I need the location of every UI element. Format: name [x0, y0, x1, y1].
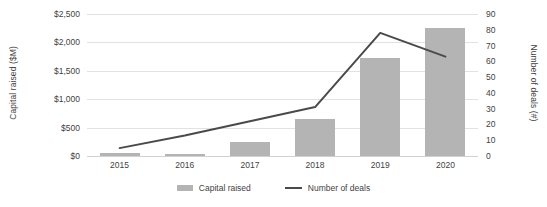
chart-legend: Capital raised Number of deals: [0, 183, 547, 193]
x-axis-tick-label-2019: 2019: [371, 161, 390, 170]
gridline: [87, 156, 478, 157]
x-axis-tick-label-2017: 2017: [240, 161, 259, 170]
legend-item-capital-raised: Capital raised: [177, 183, 251, 193]
y-axis-left-tick-label: $0: [71, 152, 80, 161]
plot-inner: $0$500$1,000$1,500$2,000$2,500 010203040…: [87, 14, 478, 156]
bar-swatch-icon: [177, 185, 193, 191]
y-axis-right-tick-label: 50: [486, 73, 495, 82]
x-axis-tick-label-2015: 2015: [110, 161, 129, 170]
y-axis-left-tick-label: $1,500: [54, 67, 80, 76]
y-axis-right-tick-label: 40: [486, 89, 495, 98]
y-axis-right-tick-label: 30: [486, 105, 495, 114]
deals-line: [120, 33, 446, 148]
legend-label-number-of-deals: Number of deals: [308, 183, 370, 193]
line-swatch-icon: [285, 187, 302, 189]
y-axis-right-tick-label: 70: [486, 42, 495, 51]
y-axis-right-tick-label: 90: [486, 10, 495, 19]
legend-item-number-of-deals: Number of deals: [285, 183, 370, 193]
y-axis-left-tick-label: $2,500: [54, 10, 80, 19]
legend-label-capital-raised: Capital raised: [199, 183, 251, 193]
y-axis-right-tick-label: 10: [486, 136, 495, 145]
x-axis-tick-label-2018: 2018: [306, 161, 325, 170]
y-axis-left-tick-label: $500: [61, 124, 80, 133]
y-axis-left-tick-label: $1,000: [54, 95, 80, 104]
plot-area: $0$500$1,000$1,500$2,000$2,500 010203040…: [87, 14, 478, 156]
combo-chart: Capital raised ($M) Number of deals (#) …: [0, 0, 547, 207]
y-axis-right-tick-label: 60: [486, 57, 495, 66]
x-axis-tick-label-2020: 2020: [436, 161, 455, 170]
y-axis-right-tick-label: 0: [486, 152, 491, 161]
y-axis-right-tick-label: 80: [486, 26, 495, 35]
y-axis-right-tick-label: 20: [486, 120, 495, 129]
y-axis-left-title: Capital raised ($M): [8, 23, 18, 143]
line-series: [87, 14, 478, 156]
y-axis-left-tick-label: $2,000: [54, 38, 80, 47]
y-axis-right-title: Number of deals (#): [529, 23, 539, 143]
x-axis-tick-label-2016: 2016: [175, 161, 194, 170]
